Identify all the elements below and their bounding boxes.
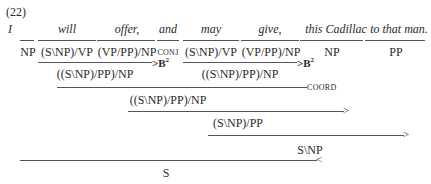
word-offer: offer, xyxy=(97,23,157,35)
word-give: give, xyxy=(240,23,300,35)
final-result-s: S xyxy=(158,167,174,179)
rule-superscript: 2 xyxy=(311,56,315,64)
rule-line-b2-left xyxy=(38,62,152,63)
rule-label-backward: < xyxy=(316,154,322,165)
word-this-cadillac: this Cadillac xyxy=(300,23,372,35)
rule-superscript: 2 xyxy=(166,56,170,64)
lexical-rule-5 xyxy=(183,40,239,41)
rule-label-b2-right: >B2 xyxy=(297,57,314,69)
example-number: (22) xyxy=(6,6,26,18)
category-np-i: NP xyxy=(18,46,38,58)
word-to-that-man: to that man. xyxy=(366,23,431,35)
rule-line-forward-1 xyxy=(128,111,344,112)
rule-label-b2-left: >B2 xyxy=(152,57,169,69)
rule-line-backward xyxy=(20,160,317,161)
word-may: may xyxy=(181,23,241,35)
rule-label-forward-2: > xyxy=(403,129,409,140)
rule-line-forward-2 xyxy=(208,135,404,136)
lexical-rule-4 xyxy=(157,40,179,41)
category-offer: (VP/PP)/NP xyxy=(96,46,158,58)
rule-symbol: >B xyxy=(152,57,166,69)
lexical-rule-7 xyxy=(300,40,363,41)
category-give: (VP/PP)/NP xyxy=(240,46,302,58)
lexical-rule-3 xyxy=(97,40,155,41)
word-and: and xyxy=(155,23,181,35)
word-i: I xyxy=(2,23,18,35)
rule-symbol: >B xyxy=(297,57,311,69)
category-pp: PP xyxy=(366,46,426,58)
rule-label-coord: COORD xyxy=(307,84,337,92)
rule-line-b2-right xyxy=(183,62,297,63)
lexical-rule-2 xyxy=(38,40,96,41)
lexical-rule-1 xyxy=(20,40,34,41)
lexical-rule-6 xyxy=(241,40,299,41)
step3-result: (S\NP)/PP xyxy=(208,117,268,129)
step1-left-result: ((S\NP)/PP)/NP xyxy=(38,68,152,80)
category-will: (S\NP)/VP xyxy=(36,46,98,58)
word-will: will xyxy=(38,23,96,35)
rule-line-coord xyxy=(57,87,307,88)
rule-label-forward-1: > xyxy=(343,105,349,116)
step2-result: ((S\NP)/PP)/NP xyxy=(128,94,208,106)
lexical-rule-8 xyxy=(365,40,425,41)
step4-result: S\NP xyxy=(290,144,330,156)
category-may: (S\NP)/VP xyxy=(180,46,242,58)
step1-right-result: ((S\NP)/PP)/NP xyxy=(183,68,297,80)
